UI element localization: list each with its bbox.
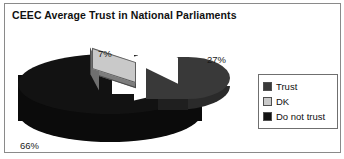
- data-label-trust: 27%: [207, 54, 226, 65]
- pie-chart-figure: CEEC Average Trust in National Parliamen…: [0, 0, 344, 159]
- chart-title: CEEC Average Trust in National Parliamen…: [12, 9, 237, 21]
- legend-item-trust: Trust: [263, 79, 337, 94]
- legend-label-trust: Trust: [276, 81, 297, 92]
- legend-item-do-not-trust: Do not trust: [263, 109, 337, 124]
- legend-swatch-dk: [263, 97, 272, 106]
- legend-label-dk: DK: [276, 96, 289, 107]
- data-label-dk: 7%: [98, 48, 112, 59]
- legend-swatch-trust: [263, 82, 272, 91]
- legend-label-do-not-trust: Do not trust: [276, 111, 325, 122]
- legend-swatch-do-not-trust: [263, 112, 272, 121]
- plot-area: 7% 27% 66%: [6, 28, 251, 152]
- legend-item-dk: DK: [263, 94, 337, 109]
- legend: Trust DK Do not trust: [258, 74, 338, 129]
- data-label-do-not-trust: 66%: [20, 140, 39, 151]
